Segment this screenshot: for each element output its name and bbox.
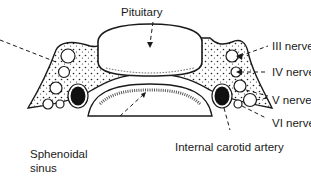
label-vi-nerve: VI nerve [272,117,311,130]
label-internal-carotid-artery: Internal carotid artery [175,141,284,154]
label-sphenoidal: Sphenoidal [30,148,88,161]
label-pituitary: Pituitary [121,6,163,19]
diagram: Pituitary III nerve IV nerve V nerve VI … [0,0,311,183]
label-sinus: sinus [30,162,57,175]
pituitary-shape [98,24,202,76]
label-iii-nerve: III nerve [272,40,311,53]
label-iv-nerve: IV nerve [272,66,311,79]
label-v-nerve: V nerve [272,94,311,107]
